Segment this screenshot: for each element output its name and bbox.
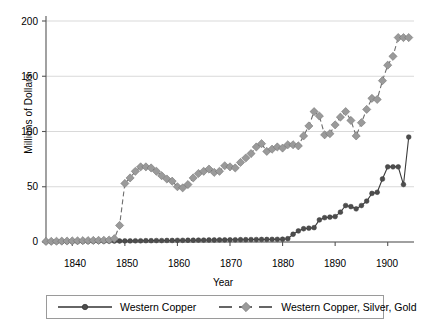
data-point [133,238,138,243]
data-point [175,238,180,243]
data-point [301,226,306,231]
data-point [165,238,170,243]
data-point [128,239,133,244]
data-point [359,203,364,208]
data-point [275,237,280,242]
data-point [343,203,348,208]
legend-item-western-copper-silver-gold[interactable]: Western Copper, Silver, Gold [218,296,416,318]
data-point [349,204,354,209]
data-point [389,52,397,60]
data-point [285,236,290,241]
data-point [354,206,359,211]
data-point [406,135,411,140]
data-point [342,108,350,116]
data-point [306,226,311,231]
data-point [338,210,343,215]
data-point [375,190,380,195]
legend-item-western-copper[interactable]: Western Copper [57,296,196,318]
data-point [154,238,159,243]
data-point [380,177,385,182]
data-point [305,122,313,130]
data-point [347,116,355,124]
series-western-copper [44,135,412,245]
data-point [299,132,307,140]
data-point [212,238,217,243]
data-point [322,215,327,220]
data-point [352,132,360,140]
data-point [170,238,175,243]
data-point [249,237,254,242]
data-point [159,238,164,243]
data-point [357,119,365,127]
legend-key-western-copper [57,301,113,313]
data-point [327,215,332,220]
data-point [391,164,396,169]
data-point [228,237,233,242]
data-point [405,33,413,41]
series-western-copper-silver-gold [42,33,413,245]
legend-label-western-copper: Western Copper [120,301,196,313]
chart-figure: Millions of Dollars Year 0 50 100 150 20… [0,0,422,324]
data-point [149,238,154,243]
data-point [280,237,285,242]
legend-key-western-copper-silver-gold [218,301,274,313]
data-point [196,238,201,243]
data-point [233,237,238,242]
series-line-western-copper-silver-gold [46,38,409,242]
chart-legend: Western Copper Western Copper, Silver, G… [46,295,384,319]
data-point [291,232,296,237]
data-point [270,237,275,242]
data-point [370,191,375,196]
data-point [336,113,344,121]
plot-area [0,0,422,324]
data-point [138,238,143,243]
data-point [143,238,148,243]
data-point [207,238,212,243]
data-point [312,225,317,230]
data-point [363,105,371,113]
data-point [331,121,339,129]
data-point [378,77,386,85]
data-point [385,164,390,169]
data-point [201,238,206,243]
data-point [238,237,243,242]
legend-label-western-copper-silver-gold: Western Copper, Silver, Gold [281,301,416,313]
data-point [296,229,301,234]
data-point [217,238,222,243]
series-line-western-copper [46,137,409,242]
data-point [186,238,191,243]
data-point [243,237,248,242]
data-point [254,237,259,242]
data-point [191,238,196,243]
data-point [264,237,269,242]
data-point [180,238,185,243]
data-point [115,221,123,229]
data-point [401,182,406,187]
data-point [259,237,264,242]
data-point [222,238,227,243]
data-point [333,214,338,219]
data-point [396,164,401,169]
data-point [122,239,127,244]
data-point [364,199,369,204]
data-point [317,218,322,223]
data-point [384,61,392,69]
